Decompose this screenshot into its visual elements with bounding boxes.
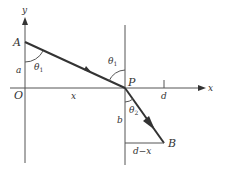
origin-label: O <box>14 89 23 102</box>
x-axis-arrow-icon <box>198 85 206 91</box>
a-segment-label: a <box>16 65 21 75</box>
y-axis-arrow-icon <box>22 17 28 25</box>
point-a-label: A <box>12 36 21 49</box>
theta1-right-label: θ1 <box>108 56 117 67</box>
theta2-arc <box>125 99 133 102</box>
y-axis-label: y <box>21 5 28 15</box>
refracted-ray <box>125 88 164 143</box>
d-minus-x-label: d−x <box>133 146 151 156</box>
x-axis-label: x <box>208 83 213 93</box>
theta1-left-label: θ1 <box>34 62 43 73</box>
point-b-label: B <box>167 137 176 150</box>
x-segment-label: x <box>71 91 76 101</box>
b-segment-label: b <box>117 115 123 125</box>
theta1-right-arc <box>109 70 125 81</box>
refraction-diagram: y x O d x A P B a b d−x θ1 θ1 θ2 <box>0 0 225 177</box>
d-label: d <box>161 91 167 101</box>
point-p-label: P <box>127 76 136 89</box>
theta1-left-arc <box>25 51 43 62</box>
refracted-ray-arrow-icon <box>143 116 155 130</box>
